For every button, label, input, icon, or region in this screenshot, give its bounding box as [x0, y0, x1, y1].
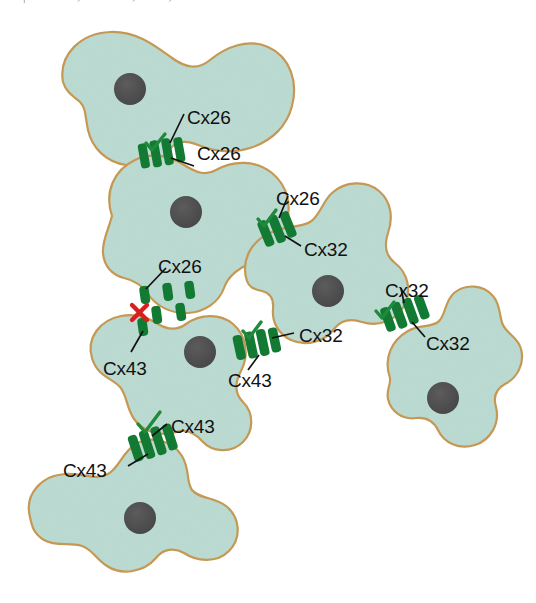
nucleus-cell-far-right	[427, 382, 459, 414]
label-junction-5-cx32-upper: Cx32	[385, 280, 429, 302]
label-junction-6-cx43-lower: Cx43	[63, 460, 107, 482]
label-junction-4-cx32: Cx32	[299, 325, 343, 347]
label-junction-2-cx32: Cx32	[304, 239, 348, 261]
label-junction-3-cx26: Cx26	[158, 256, 202, 278]
cells-and-junctions-svg	[0, 0, 536, 603]
label-junction-1-cx26-upper: Cx26	[187, 107, 231, 129]
cell-shapes-group	[29, 32, 522, 572]
label-junction-3-cx43: Cx43	[103, 358, 147, 380]
nucleus-cell-bottom-left	[124, 502, 156, 534]
label-junction-4-cx43: Cx43	[228, 370, 272, 392]
nucleus-cell-lower-middle	[184, 336, 216, 368]
label-junction-1-cx26-lower: Cx26	[197, 143, 241, 165]
label-junction-5-cx32-lower: Cx32	[426, 333, 470, 355]
label-junction-2-cx26: Cx26	[276, 188, 320, 210]
diagram-canvas: Cx26 Cx26 Cx26 Cx32 Cx26 Cx43 Cx32 Cx43 …	[0, 0, 536, 603]
nucleus-cell-middle-right	[312, 275, 344, 307]
connexin-gap-junction-figure: · | · · , · · , · , · · · · · ·	[0, 0, 536, 603]
label-junction-6-cx43-upper: Cx43	[171, 416, 215, 438]
nucleus-cell-top-left	[114, 73, 146, 105]
nucleus-cell-upper-middle	[170, 196, 202, 228]
